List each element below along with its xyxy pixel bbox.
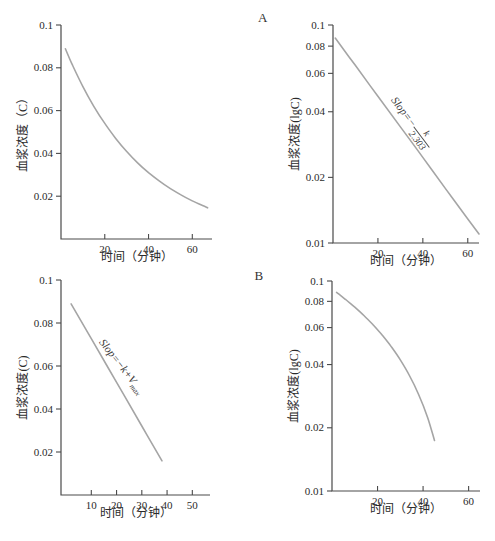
x-axis-label: 时间（分钟） [101, 249, 173, 264]
y-tick-label: 0.06 [305, 321, 325, 333]
y-tick-label: 0.06 [34, 104, 54, 116]
y-tick-label: 0.1 [39, 274, 53, 286]
y-tick-label: 0.02 [305, 421, 324, 433]
y-tick-label: 0.04 [34, 147, 54, 159]
x-tick-label: 60 [187, 243, 199, 255]
axes [332, 281, 480, 491]
y-axis-ticks: 0.10.080.060.040.02 [34, 19, 61, 202]
chart-top-right: 0.10.080.060.040.020.01204060血浆浓度(lgC)时间… [287, 19, 479, 269]
y-axis-ticks: 0.10.080.060.040.020.01 [305, 275, 332, 497]
y-tick-label: 0.08 [306, 40, 326, 52]
x-tick-label: 60 [462, 247, 474, 259]
y-axis-label: 血浆浓度(lgC) [286, 349, 301, 422]
curve-plasma-concentration-zero-order [71, 304, 162, 461]
y-tick-label: 0.02 [34, 446, 53, 458]
y-axis-label: 血浆浓度（C） [15, 92, 30, 172]
axes [61, 25, 212, 239]
y-tick-label: 0.08 [305, 295, 325, 307]
y-tick-label: 0.01 [305, 485, 324, 497]
y-tick-label: 0.06 [34, 360, 54, 372]
curve-plasma-concentration-first-order [65, 49, 207, 208]
x-tick-label: 50 [187, 499, 199, 511]
panel-label-a: A [258, 10, 268, 26]
y-tick-label: 0.06 [306, 67, 326, 79]
y-tick-label: 0.08 [34, 317, 54, 329]
y-tick-label: 0.1 [39, 19, 53, 31]
x-axis-label: 时间（分钟） [370, 253, 442, 268]
x-tick-label: 10 [86, 499, 98, 511]
y-axis-ticks: 0.10.080.060.040.02 [34, 274, 61, 458]
y-axis-ticks: 0.10.080.060.040.020.01 [306, 19, 333, 249]
x-axis-label: 时间（分钟） [370, 501, 442, 516]
y-tick-label: 0.02 [306, 171, 325, 183]
chart-top-left: 0.10.080.060.040.02204060血浆浓度（C）时间（分钟） [15, 19, 212, 265]
y-tick-label: 0.1 [311, 19, 325, 31]
y-tick-label: 0.1 [310, 275, 324, 287]
y-tick-label: 0.02 [34, 190, 53, 202]
y-tick-label: 0.04 [34, 403, 54, 415]
chart-bottom-right: 0.10.080.060.040.020.01204060血浆浓度(lgC)时间… [286, 275, 480, 517]
pharmacokinetics-figure: 0.10.080.060.040.02204060血浆浓度（C）时间（分钟）0.… [0, 0, 495, 541]
panel-label-b: B [254, 268, 263, 284]
chart-bottom-left: 0.10.080.060.040.021020304050血浆浓度(C)时间（分… [15, 274, 210, 521]
x-axis-label: 时间（分钟） [100, 505, 172, 520]
y-tick-label: 0.01 [306, 237, 325, 249]
y-tick-label: 0.04 [306, 105, 326, 117]
y-axis-label: 血浆浓度(lgC) [287, 97, 302, 170]
y-tick-label: 0.04 [305, 358, 325, 370]
curve-plasma-concentration-zero-order-semilog [337, 292, 435, 440]
y-axis-label: 血浆浓度(C) [15, 356, 30, 420]
y-tick-label: 0.08 [34, 61, 54, 73]
figure-canvas: 0.10.080.060.040.02204060血浆浓度（C）时间（分钟）0.… [0, 0, 495, 541]
x-tick-label: 60 [463, 495, 475, 507]
